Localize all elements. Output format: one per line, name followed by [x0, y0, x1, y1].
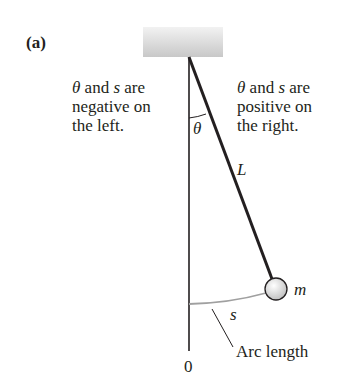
- mass-label: m: [294, 280, 306, 299]
- left-note: θ and s are negative on the left.: [72, 78, 151, 135]
- ceiling-support: [143, 27, 223, 57]
- origin-label: 0: [184, 357, 193, 376]
- pendulum-bob: [265, 278, 287, 300]
- arc-length-caption: Arc length: [236, 342, 308, 361]
- pendulum-diagram: [0, 0, 356, 392]
- arc-length-path: [189, 293, 266, 304]
- length-label: L: [237, 160, 246, 179]
- angle-arc: [189, 114, 206, 118]
- angle-label: θ: [193, 119, 201, 138]
- right-note: θ and s are positive on the right.: [237, 78, 312, 135]
- arc-symbol-label: s: [230, 305, 237, 324]
